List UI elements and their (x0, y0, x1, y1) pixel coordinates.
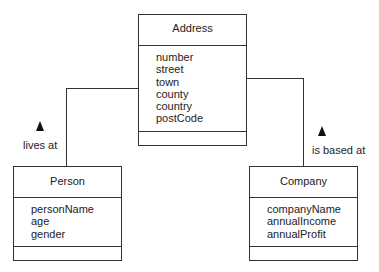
association-label-lives-at: lives at (23, 139, 57, 151)
association-line-company-vertical (303, 78, 304, 166)
attribute: companyName (267, 203, 357, 215)
class-name: Person (14, 167, 121, 198)
class-attributes: companyName annualIncome annualProfit (250, 198, 357, 247)
attribute: street (156, 63, 246, 75)
attribute: annualIncome (267, 215, 357, 227)
association-line-person-horizontal (66, 88, 138, 89)
direction-arrow-up-icon (318, 126, 326, 136)
association-label-is-based-at: is based at (312, 144, 365, 156)
class-name: Address (139, 15, 246, 46)
attribute: gender (31, 228, 121, 240)
class-person[interactable]: Person personName age gender (13, 166, 122, 261)
attribute: county (156, 88, 246, 100)
attribute: number (156, 51, 246, 63)
class-name: Company (250, 167, 357, 198)
attribute: age (31, 215, 121, 227)
attribute: annualProfit (267, 228, 357, 240)
direction-arrow-up-icon (36, 121, 44, 131)
class-address[interactable]: Address number street town county countr… (138, 14, 247, 146)
class-company[interactable]: Company companyName annualIncome annualP… (249, 166, 358, 261)
association-line-person-vertical (66, 88, 67, 166)
attribute: country (156, 100, 246, 112)
attribute: personName (31, 203, 121, 215)
class-attributes: number street town county country postCo… (139, 46, 246, 132)
attribute: town (156, 76, 246, 88)
class-attributes: personName age gender (14, 198, 121, 247)
attribute: postCode (156, 112, 246, 124)
association-line-company-horizontal (246, 78, 304, 79)
